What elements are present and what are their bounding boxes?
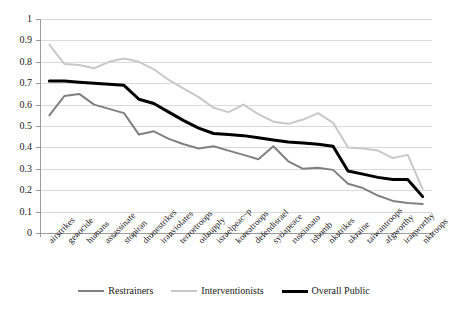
chart-legend: RestrainersInterventionistsOverall Publi…	[0, 281, 448, 301]
legend-label: Overall Public	[312, 286, 370, 296]
legend-swatch-icon	[171, 290, 197, 292]
y-tick-label: 0.3	[2, 164, 32, 174]
legend-swatch-icon	[78, 290, 104, 292]
y-tick-label: 0.4	[2, 142, 32, 152]
y-tick-label: 0.2	[2, 185, 32, 195]
series-lines	[40, 19, 432, 233]
y-tick-label: 0.7	[2, 78, 32, 88]
series-line-overall-public	[49, 81, 422, 197]
y-tick-label: 0.8	[2, 57, 32, 67]
legend-label: Restrainers	[108, 286, 153, 296]
series-line-interventionists	[49, 45, 422, 189]
legend-label: Interventionists	[201, 286, 263, 296]
y-tick-label: 0.1	[2, 207, 32, 217]
y-tick-label: 0.9	[2, 35, 32, 45]
y-tick-label: 0.6	[2, 100, 32, 110]
y-tick-label: 1	[2, 14, 32, 24]
legend-item-overall-public[interactable]: Overall Public	[282, 286, 370, 296]
legend-item-restrainers[interactable]: Restrainers	[78, 286, 153, 296]
legend-item-interventionists[interactable]: Interventionists	[171, 286, 263, 296]
y-tick-label: 0.5	[2, 121, 32, 131]
legend-swatch-icon	[282, 290, 308, 293]
